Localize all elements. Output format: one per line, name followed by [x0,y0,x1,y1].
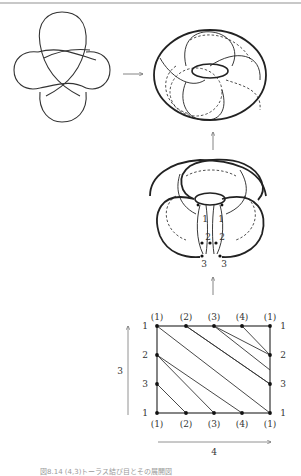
cut-label-left-1: 1 [202,214,208,224]
grid-top-label-3: (4) [236,312,249,322]
grid-right-label-0: 1 [280,321,286,331]
knot-diagram [14,12,110,122]
flat-rectangle [155,324,272,415]
torus-with-knot [154,30,266,120]
grid-bottom-label-3: (4) [236,419,249,429]
cut-label-right-1: 1 [218,214,224,224]
grid-right-label-3: 1 [280,408,286,418]
grid-left-label-2: 3 [142,379,148,389]
grid-left-label-0: 1 [142,321,148,331]
grid-bottom-label-4: (1) [264,419,277,429]
grid-right-label-1: 2 [280,350,286,360]
grid-left-label-3: 1 [142,408,148,418]
figure-caption: 図8.14 (4,3)トーラス結び目とその展開図 [40,466,270,476]
cut-label-right-2: 2 [219,232,225,242]
grid-top-label-0: (1) [151,312,164,322]
cut-label-right-3: 3 [221,259,227,269]
vertical-arrow-label: 3 [117,366,123,376]
grid-top-label-4: (1) [264,312,277,322]
grid-bottom-label-2: (3) [208,419,221,429]
grid-bottom-label-0: (1) [151,419,164,429]
cut-label-left-3: 3 [201,259,207,269]
grid-right-label-2: 3 [280,379,286,389]
grid-top-label-1: (2) [180,312,193,322]
grid-top-label-2: (3) [208,312,221,322]
grid-bottom-label-1: (2) [180,419,193,429]
grid-left-label-1: 2 [142,350,148,360]
cut-torus [150,160,266,259]
horizontal-arrow-label: 4 [211,447,217,457]
cut-label-left-2: 2 [205,232,211,242]
